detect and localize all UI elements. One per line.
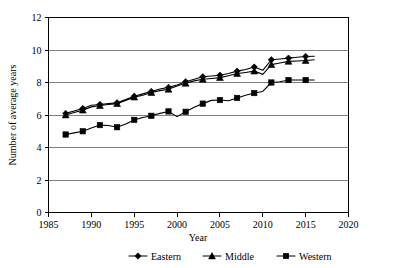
- data-series: [62, 53, 314, 137]
- x-tick-label-2020: 2020: [339, 219, 359, 230]
- x-tick-label-2005: 2005: [210, 219, 230, 230]
- y-tick-label-2: 2: [37, 175, 42, 186]
- legend-marker-eastern: [135, 253, 141, 259]
- y-tick-label-8: 8: [37, 77, 42, 88]
- data-point-western-1999: [166, 109, 171, 114]
- y-tick-label-10: 10: [32, 45, 42, 56]
- chart-legend: EasternMiddleWestern: [129, 251, 332, 262]
- y-tick-label-4: 4: [37, 142, 42, 153]
- data-point-western-1991: [97, 122, 102, 127]
- legend-label-western: Western: [299, 251, 332, 262]
- data-point-western-1997: [149, 113, 154, 118]
- y-tick-label-0: 0: [37, 207, 42, 218]
- legend-label-eastern: Eastern: [151, 251, 181, 262]
- legend-marker-western: [283, 253, 288, 258]
- data-point-western-1989: [80, 129, 85, 134]
- data-point-western-2009: [252, 90, 257, 95]
- legend-label-middle: Middle: [225, 251, 254, 262]
- line-chart: 024681012 198519901995200020052010201520…: [0, 0, 397, 268]
- x-tick-label-2000: 2000: [167, 219, 187, 230]
- data-point-western-1995: [132, 117, 137, 122]
- y-axis-label: Number of average years: [7, 65, 18, 166]
- data-point-western-2005: [217, 97, 222, 102]
- y-tick-label-12: 12: [32, 12, 42, 23]
- data-point-western-2007: [234, 95, 239, 100]
- data-point-middle-2009: [251, 68, 258, 74]
- data-point-western-2015: [303, 77, 308, 82]
- x-axis-ticks: 19851990199520002005201020152020: [39, 213, 359, 230]
- x-tick-label-1985: 1985: [39, 219, 59, 230]
- y-axis-ticks: 024681012: [32, 12, 49, 218]
- gridlines: [49, 50, 349, 180]
- chart-container: 024681012 198519901995200020052010201520…: [0, 0, 397, 268]
- y-tick-label-6: 6: [37, 110, 42, 121]
- x-tick-label-1995: 1995: [124, 219, 144, 230]
- data-point-western-2013: [286, 77, 291, 82]
- data-point-western-2001: [183, 109, 188, 114]
- x-tick-label-2010: 2010: [253, 219, 273, 230]
- x-axis-label: Year: [189, 232, 208, 243]
- data-point-western-1987: [63, 132, 68, 137]
- x-tick-label-1990: 1990: [81, 219, 101, 230]
- x-tick-label-2015: 2015: [296, 219, 316, 230]
- data-point-western-2011: [269, 80, 274, 85]
- series-line-middle: [66, 60, 315, 115]
- data-point-western-1993: [114, 124, 119, 129]
- data-point-western-2003: [200, 101, 205, 106]
